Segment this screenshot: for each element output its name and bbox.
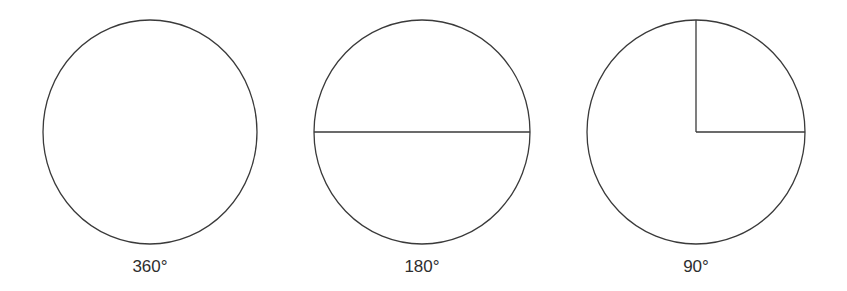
label-360: 360° bbox=[90, 257, 210, 277]
label-180: 180° bbox=[362, 257, 482, 277]
label-90: 90° bbox=[636, 257, 756, 277]
circle-360 bbox=[43, 20, 257, 244]
angle-diagram bbox=[0, 0, 847, 291]
